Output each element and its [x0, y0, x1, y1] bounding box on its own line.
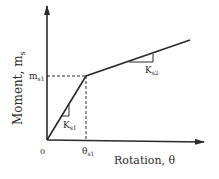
origin-label: 0 [40, 147, 45, 156]
post-yield-stiffness-label: Ks2 [145, 65, 159, 76]
moment-rotation-diagram: Moment, ms ms1 0 θs1 Ks1 Ks2 Rotation, θ [0, 0, 219, 179]
yield-moment-label: ms1 [29, 71, 44, 82]
x-axis [47, 140, 204, 142]
post-yield-stiffness-triangle [129, 54, 153, 62]
x-axis-label: Rotation, θ [114, 154, 176, 167]
initial-stiffness-label: Ks1 [63, 120, 77, 131]
yield-rotation-label: θs1 [82, 146, 94, 157]
y-axis-label: Moment, ms [11, 51, 27, 125]
